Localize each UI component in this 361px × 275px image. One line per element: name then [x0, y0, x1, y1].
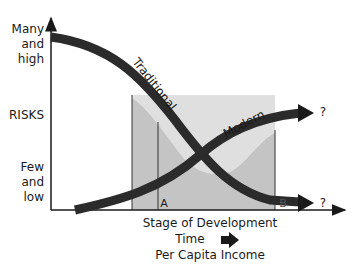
y-bottom-label-line2: and: [4, 175, 44, 190]
modern-end-label: ?: [318, 105, 328, 120]
y-top-label-line1: Many: [4, 22, 44, 37]
y-bottom-label-line1: Few: [4, 160, 44, 175]
x-axis-income-label: Per Capita Income: [130, 248, 290, 263]
y-bottom-label-line3: low: [4, 190, 44, 205]
y-top-label: Many and high: [4, 22, 44, 67]
y-top-label-line3: high: [4, 52, 44, 67]
modern-arrowhead: [298, 104, 314, 122]
marker-a-label: A: [158, 196, 170, 211]
traditional-end-label: ?: [318, 196, 328, 211]
marker-b-label: B: [277, 196, 289, 211]
x-axis-time-label: Time: [160, 232, 220, 247]
time-arrow-icon: [221, 232, 239, 248]
y-bottom-label: Few and low: [4, 160, 44, 205]
y-axis-title: RISKS: [4, 108, 44, 123]
x-axis-title: Stage of Development: [130, 216, 290, 231]
y-top-label-line2: and: [4, 37, 44, 52]
